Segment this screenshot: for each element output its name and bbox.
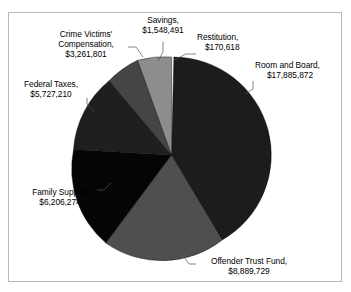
- pie-label-crime-victims-line1: Crime Victims': [60, 29, 112, 39]
- pie-label-restitution-line1: Restitution,: [197, 32, 238, 42]
- leader-line-crime-victims: [128, 47, 143, 57]
- pie-label-savings-line2: $1,548,491: [123, 25, 203, 35]
- pie-label-room-and-board-line1: Room and Board,: [255, 60, 320, 70]
- pie-label-federal-taxes-line1: Federal Taxes,: [24, 79, 78, 89]
- pie-label-offender-trust-fund-line1: Offender Trust Fund,: [211, 256, 287, 266]
- pie-label-room-and-board: Room and Board, $17,885,872: [255, 60, 350, 80]
- pie-label-family-support-line2: $6,206,274: [21, 197, 99, 207]
- pie-label-savings-line1: Savings,: [147, 15, 179, 25]
- pie-slices: [72, 57, 272, 261]
- pie-label-federal-taxes-line2: $5,727,210: [13, 89, 89, 99]
- pie-label-crime-victims-line2: Compensation,: [44, 39, 128, 49]
- pie-label-savings: Savings, $1,548,491: [123, 15, 203, 35]
- pie-label-room-and-board-line2: $17,885,872: [255, 70, 350, 80]
- pie-label-offender-trust-fund: Offender Trust Fund, $8,889,729: [194, 256, 304, 276]
- pie-label-restitution-line2: $170,618: [197, 42, 287, 52]
- pie-label-family-support: Family Support $6,206,274: [21, 187, 99, 207]
- pie-label-crime-victims-compensation: Crime Victims' Compensation, $3,261,801: [44, 29, 128, 60]
- pie-label-offender-trust-fund-line2: $8,889,729: [194, 266, 304, 276]
- pie-label-family-support-line1: Family Support: [32, 187, 88, 197]
- pie-label-restitution: Restitution, $170,618: [197, 32, 287, 52]
- pie-label-federal-taxes: Federal Taxes, $5,727,210: [13, 79, 89, 99]
- pie-label-crime-victims-line3: $3,261,801: [44, 49, 128, 59]
